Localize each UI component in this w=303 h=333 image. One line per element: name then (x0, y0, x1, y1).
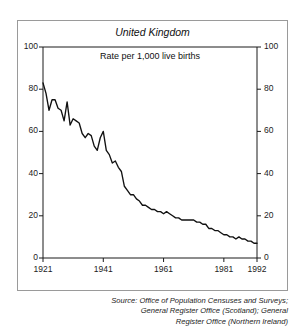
x-axis-label-1921: 1921 (26, 265, 60, 274)
y-axis-right-label-0: 0 (264, 253, 292, 262)
y-axis-left-label-100: 100 (10, 42, 38, 51)
unit-label: Rate per 1,000 live births (43, 51, 257, 61)
y-axis-right-label-80: 80 (264, 84, 292, 93)
chart-figure: United Kingdom Rate per 1,000 live birth… (0, 0, 303, 333)
y-axis-left-label-20: 20 (10, 211, 38, 220)
x-axis-label-1941: 1941 (86, 265, 120, 274)
panel-title: United Kingdom (17, 26, 288, 38)
x-axis-label-1981: 1981 (207, 265, 241, 274)
y-axis-right-label-60: 60 (264, 126, 292, 135)
y-axis-right-label-100: 100 (264, 42, 292, 51)
source-line-2: General Register Office (Scotland); Gene… (108, 306, 288, 316)
source-line-3: Register Office (Northern Ireland) (108, 317, 288, 327)
x-axis-label-1992: 1992 (240, 265, 274, 274)
y-axis-left-label-40: 40 (10, 169, 38, 178)
y-axis-left-label-0: 0 (10, 253, 38, 262)
y-axis-left-label-60: 60 (10, 126, 38, 135)
y-axis-left-label-80: 80 (10, 84, 38, 93)
y-axis-right-label-20: 20 (264, 211, 292, 220)
y-axis-right-label-40: 40 (264, 169, 292, 178)
source-line-1: Source: Office of Population Censuses an… (108, 296, 288, 306)
source-note: Source: Office of Population Censuses an… (108, 296, 288, 327)
x-axis-label-1961: 1961 (147, 265, 181, 274)
